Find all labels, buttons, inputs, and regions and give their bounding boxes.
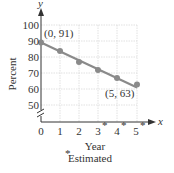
- data-points: [38, 40, 140, 88]
- x-tick: 3: [95, 125, 101, 137]
- grid: [41, 25, 137, 122]
- star-mark: *: [102, 119, 108, 131]
- x-tick: 4: [114, 125, 120, 137]
- x-tick: 5: [133, 125, 139, 137]
- y-tick: 70: [28, 67, 40, 79]
- x-axis-arrow-icon: [148, 119, 156, 125]
- data-point: [114, 75, 120, 81]
- x-axis-title: Year: [85, 140, 106, 152]
- data-point: [57, 48, 63, 54]
- y-axis-var: y: [37, 0, 43, 9]
- y-tick: 80: [28, 51, 40, 63]
- y-tick: 60: [28, 83, 40, 95]
- y-axis-arrow-icon: [38, 8, 44, 16]
- data-point: [134, 82, 140, 88]
- y-tick-labels: 100 90 80 70 60 50: [23, 19, 40, 111]
- trend-line: [41, 43, 137, 88]
- chart: y x 100 90 80 70 60 50 0 1 2 3 4 5 * * *…: [0, 0, 174, 173]
- footnote: Estimated: [68, 152, 112, 164]
- data-point: [76, 59, 82, 65]
- y-tick: 50: [28, 99, 40, 111]
- annotation-start: (0, 91): [44, 27, 74, 40]
- y-axis-title: Percent: [6, 58, 18, 91]
- x-tick: 2: [76, 125, 82, 137]
- annotation-end: (5, 63): [105, 87, 135, 100]
- star-mark: *: [140, 119, 146, 131]
- x-tick: 0: [38, 125, 44, 137]
- y-tick: 100: [23, 19, 40, 31]
- star-mark: *: [121, 119, 127, 131]
- x-axis-var: x: [157, 115, 163, 127]
- x-tick: 1: [57, 125, 63, 137]
- y-tick: 90: [28, 35, 40, 47]
- estimated-stars: * * *: [102, 119, 146, 131]
- data-point: [95, 67, 101, 73]
